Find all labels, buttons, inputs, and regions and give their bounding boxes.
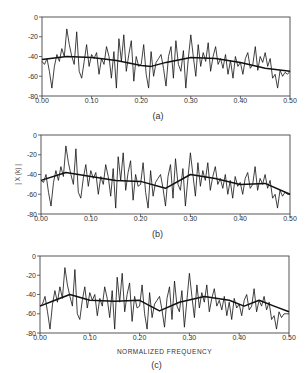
periodogram-line [41,146,290,208]
x-tick-label: 0.50 [282,334,296,341]
chart-panel-c: 0-20-40-60-800.000.100.200.300.400.50NOR… [26,253,296,371]
x-tick-label: 0.20 [134,215,148,222]
y-tick-label: -60 [26,310,36,317]
y-tick-label: 0 [34,14,38,21]
y-tick-label: -20 [28,33,38,40]
x-tick-label: 0.20 [133,334,147,341]
x-axis-label: NORMALIZED FREQUENCY [117,348,212,356]
x-tick-label: 0.00 [33,334,47,341]
periodogram-line [40,268,289,330]
chart-panel-a: 0-20-40-60-800.000.100.200.300.400.50(a) [28,14,297,122]
y-tick-label: -40 [26,291,36,298]
panel-label: (c) [151,360,162,370]
plot-frame [40,256,289,333]
panel-label: (a) [153,111,164,121]
x-tick-label: 0.40 [232,334,246,341]
periodogram-line [42,29,290,88]
x-tick-label: 0.40 [234,97,248,104]
y-tick-label: -60 [27,191,37,198]
y-tick-label: -40 [28,53,38,60]
x-tick-label: 0.00 [34,215,48,222]
x-tick-label: 0.10 [85,97,99,104]
x-tick-label: 0.10 [83,334,97,341]
y-tick-label: -40 [27,171,37,178]
x-tick-label: 0.20 [134,97,148,104]
y-tick-label: -60 [28,73,38,80]
chart-panel-b: 0-20-40-60-800.000.100.200.300.400.50| X… [14,132,297,240]
x-tick-label: 0.30 [184,215,198,222]
x-tick-label: 0.40 [233,215,247,222]
x-tick-label: 0.50 [283,97,297,104]
y-tick-label: 0 [33,132,37,139]
x-tick-label: 0.50 [283,215,297,222]
y-tick-label: -20 [27,151,37,158]
x-tick-label: 0.30 [183,334,197,341]
y-axis-label: | X (k) | [14,164,22,185]
panel-label: (b) [152,229,163,239]
y-tick-label: 0 [32,253,36,260]
x-tick-label: 0.00 [35,97,49,104]
figure: 0-20-40-60-800.000.100.200.300.400.50(a)… [0,0,307,373]
y-tick-label: -20 [26,272,36,279]
x-tick-label: 0.30 [184,97,198,104]
x-tick-label: 0.10 [84,215,98,222]
